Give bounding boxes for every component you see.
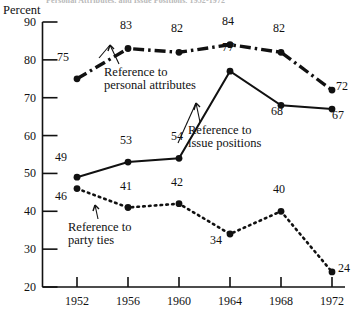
leader-line-issue-hook — [178, 103, 196, 143]
marker-personal-1964 — [227, 41, 234, 48]
y-tick-marks — [43, 22, 58, 287]
marker-personal-1960 — [176, 49, 183, 56]
line-personal — [77, 45, 332, 90]
marker-personal-1952 — [74, 75, 81, 82]
marker-party-1972 — [329, 269, 336, 276]
plot-area — [0, 0, 363, 318]
marker-party-1960 — [176, 200, 183, 207]
line-issue — [77, 71, 332, 177]
series-issue-positions — [74, 68, 336, 181]
leader-line-personal-hook — [99, 45, 110, 58]
marker-issue-1968 — [278, 102, 285, 109]
marker-issue-1956 — [125, 159, 132, 166]
series-personal-attributes — [74, 41, 336, 93]
series-party-ties — [74, 185, 336, 275]
marker-personal-1972 — [329, 87, 336, 94]
marker-issue-1960 — [176, 155, 183, 162]
marker-personal-1968 — [278, 49, 285, 56]
axes — [43, 22, 346, 287]
line-party — [77, 189, 332, 272]
annotation-leader-lines — [93, 45, 200, 219]
marker-party-1956 — [125, 204, 132, 211]
x-tick-marks — [77, 277, 332, 287]
chart-container: Personal Attributes, and Issue Positions… — [0, 0, 363, 318]
marker-issue-1964 — [227, 68, 234, 75]
marker-issue-1952 — [74, 174, 81, 181]
marker-personal-1956 — [125, 45, 132, 52]
marker-party-1968 — [278, 208, 285, 215]
marker-party-1952 — [74, 185, 81, 192]
marker-party-1964 — [227, 231, 234, 238]
marker-issue-1972 — [329, 106, 336, 113]
